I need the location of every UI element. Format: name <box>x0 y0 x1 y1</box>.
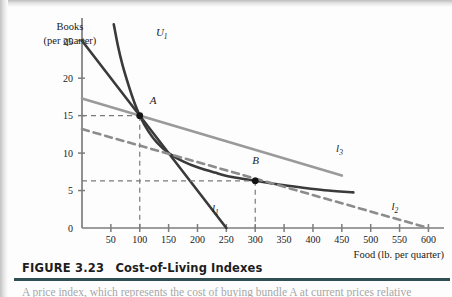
y-axis-tick-label: 5 <box>68 185 73 196</box>
x-axis-tick-label: 600 <box>421 234 436 245</box>
data-point-B <box>252 177 259 184</box>
body-text-fragment: A price index, which represents the cost… <box>22 286 446 297</box>
x-axis-tick-label: 550 <box>392 234 407 245</box>
y-axis-title: Books <box>57 21 84 32</box>
x-axis-tick-label: 200 <box>190 234 205 245</box>
figure-number: FIGURE 3.23 <box>22 261 104 275</box>
figure-title: Cost-of-Living Indexes <box>116 261 263 275</box>
figure-caption: FIGURE 3.23 Cost-of-Living Indexes <box>8 258 452 278</box>
y-axis-tick-label: 20 <box>63 73 73 84</box>
curve-label-l3: l3 <box>336 142 343 157</box>
data-point-label-B: B <box>252 154 259 166</box>
x-axis-tick-label: 500 <box>363 234 378 245</box>
figure-page: 0510152025501001502002503003504004505005… <box>0 0 452 297</box>
curve-l3 <box>82 98 342 175</box>
chart-plot-area: 0510152025501001502002503003504004505005… <box>0 0 452 262</box>
data-point-label-A: A <box>149 94 157 106</box>
figure-caption-block: FIGURE 3.23 Cost-of-Living Indexes <box>8 258 452 281</box>
curve-label-U1: U1 <box>156 26 168 41</box>
data-point-A <box>136 112 143 119</box>
y-axis-title-unit: (per quarter) <box>44 35 97 47</box>
y-axis-tick-label: 15 <box>63 110 73 121</box>
x-axis-tick-label: 50 <box>106 234 116 245</box>
curve-label-l2: l2 <box>391 200 398 215</box>
x-axis-tick-label: 100 <box>132 234 147 245</box>
y-axis-tick-label: 10 <box>63 148 73 159</box>
y-axis-tick-label: 0 <box>68 223 73 234</box>
x-axis-tick-label: 350 <box>277 234 292 245</box>
x-axis-tick-label: 400 <box>305 234 320 245</box>
cost-of-living-chart: 0510152025501001502002503003504004505005… <box>0 0 452 262</box>
x-axis-tick-label: 450 <box>334 234 349 245</box>
x-axis-tick-label: 150 <box>161 234 176 245</box>
x-axis-tick-label: 300 <box>248 234 263 245</box>
caption-divider-rule <box>14 278 450 281</box>
curve-label-l1: l1 <box>212 202 219 217</box>
x-axis-tick-label: 250 <box>219 234 234 245</box>
